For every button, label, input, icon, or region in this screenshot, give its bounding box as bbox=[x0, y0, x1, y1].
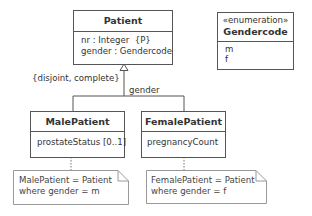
enum-literal: f bbox=[225, 54, 293, 64]
class-male-patient-name: MalePatient bbox=[31, 112, 124, 132]
class-patient-name: Patient bbox=[74, 11, 172, 32]
class-female-patient-name: FemalePatient bbox=[142, 112, 225, 132]
class-male-patient-attributes: prostateStatus [0..1] bbox=[31, 132, 124, 148]
enum-gendercode[interactable]: «enumeration» Gendercode m f bbox=[217, 12, 294, 70]
attribute: pregnancyCount bbox=[147, 137, 225, 148]
note-line: where gender = f bbox=[151, 186, 255, 197]
generalization-discriminator: gender bbox=[129, 85, 159, 95]
class-patient-attributes: nr : Integer {P} gender : Gendercode bbox=[74, 32, 172, 57]
note-male: MalePatient = Patient where gender = m bbox=[19, 175, 112, 197]
attribute: gender : Gendercode bbox=[81, 46, 172, 57]
attribute: nr : Integer {P} bbox=[81, 35, 172, 46]
enum-gendercode-header: «enumeration» Gendercode bbox=[218, 13, 293, 42]
enum-gendercode-name: Gendercode bbox=[218, 26, 293, 38]
note-line: where gender = m bbox=[19, 186, 112, 197]
class-male-patient[interactable]: MalePatient prostateStatus [0..1] bbox=[30, 111, 125, 158]
attribute: prostateStatus [0..1] bbox=[37, 137, 124, 148]
enum-literal: m bbox=[225, 44, 293, 54]
note-female: FemalePatient = Patient where gender = f bbox=[151, 175, 255, 197]
generalization-constraint: {disjoint, complete} bbox=[32, 73, 120, 83]
class-female-patient[interactable]: FemalePatient pregnancyCount bbox=[141, 111, 226, 158]
enum-literals: m f bbox=[218, 42, 293, 64]
stereotype-label: «enumeration» bbox=[218, 15, 293, 26]
note-line: FemalePatient = Patient bbox=[151, 175, 255, 186]
class-female-patient-attributes: pregnancyCount bbox=[142, 132, 225, 148]
note-line: MalePatient = Patient bbox=[19, 175, 112, 186]
class-patient[interactable]: Patient nr : Integer {P} gender : Gender… bbox=[73, 10, 173, 65]
